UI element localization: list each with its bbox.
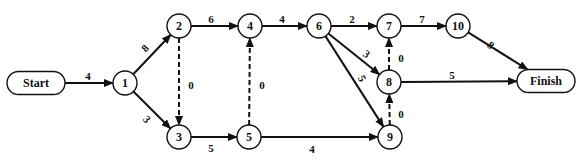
activity-arrow-8-to-finish bbox=[401, 81, 517, 82]
node-label: 3 bbox=[176, 130, 182, 144]
activity-arrow-6-to-9 bbox=[325, 36, 383, 127]
node-label: 2 bbox=[176, 19, 182, 33]
edge-weight-label: 0 bbox=[259, 79, 265, 91]
edge-labels-layer: 48306504423500785 bbox=[85, 13, 497, 155]
finish-terminal-label: Finish bbox=[530, 74, 562, 88]
node-8: 8 bbox=[377, 70, 401, 94]
node-3: 3 bbox=[167, 125, 191, 149]
edge-weight-label: 4 bbox=[279, 13, 285, 25]
activity-arrow-1-to-2 bbox=[133, 35, 170, 75]
activity-arrow-1-to-3 bbox=[133, 91, 170, 128]
finish-terminal: Finish bbox=[517, 70, 575, 93]
node-label: 8 bbox=[386, 75, 392, 89]
node-label: 4 bbox=[247, 19, 253, 33]
node-4: 4 bbox=[238, 14, 262, 38]
edge-weight-label: 7 bbox=[419, 13, 425, 25]
node-label: 1 bbox=[122, 76, 128, 90]
edge-weight-label: 4 bbox=[85, 70, 91, 82]
network-diagram: 12345678910StartFinish 48306504423500785 bbox=[0, 0, 583, 160]
start-terminal-label: Start bbox=[23, 76, 49, 90]
node-label: 7 bbox=[386, 19, 392, 33]
edge-weight-label: 0 bbox=[398, 52, 404, 64]
edge-weight-label: 3 bbox=[141, 113, 154, 126]
node-6: 6 bbox=[307, 14, 331, 38]
dummy-arrow-5-to-4 bbox=[249, 38, 250, 125]
edge-weight-label: 3 bbox=[361, 47, 373, 60]
node-5: 5 bbox=[237, 125, 261, 149]
edge-weight-label: 6 bbox=[208, 13, 214, 25]
edge-weight-label: 5 bbox=[449, 69, 455, 81]
activity-arrow-10-to-finish bbox=[468, 32, 527, 69]
network-diagram-svg: 12345678910StartFinish 48306504423500785 bbox=[0, 0, 583, 160]
edge-weight-label: 5 bbox=[356, 73, 369, 84]
node-label: 6 bbox=[316, 19, 322, 33]
edge-weight-label: 0 bbox=[188, 79, 194, 91]
node-1: 1 bbox=[113, 71, 137, 95]
edge-weight-label: 5 bbox=[208, 142, 214, 154]
node-9: 9 bbox=[378, 125, 402, 149]
edge-weight-label: 8 bbox=[139, 42, 152, 55]
node-label: 10 bbox=[452, 19, 464, 33]
edge-weight-label: 2 bbox=[349, 13, 355, 25]
node-label: 5 bbox=[246, 130, 252, 144]
node-2: 2 bbox=[167, 14, 191, 38]
node-7: 7 bbox=[377, 14, 401, 38]
edge-weight-label: 0 bbox=[398, 108, 404, 120]
dummy-arrow-9-to-8 bbox=[389, 94, 390, 125]
node-10: 10 bbox=[446, 14, 470, 38]
start-terminal: Start bbox=[7, 72, 65, 95]
edge-weight-label: 4 bbox=[309, 143, 315, 155]
node-label: 9 bbox=[387, 130, 393, 144]
